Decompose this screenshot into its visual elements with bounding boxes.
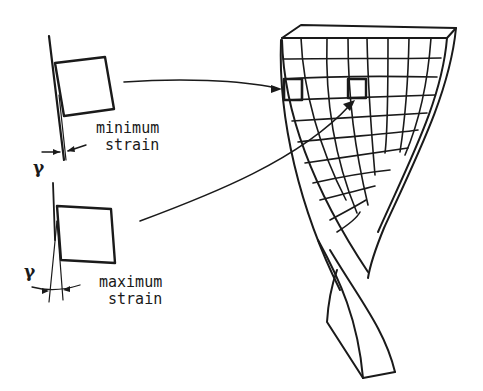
gamma-symbol-min: γ: [33, 157, 44, 177]
maximum-strain-label: maximum strain: [99, 274, 162, 308]
minimum-label-line2: strain: [96, 137, 159, 154]
maximum-label-line1: maximum: [99, 274, 162, 291]
leader-line-minimum: [124, 80, 276, 88]
minimum-label-line1: minimum: [96, 120, 159, 137]
strain-grid: [283, 38, 441, 232]
leader-line-maximum: [140, 105, 350, 221]
twisted-bar-diagram: [0, 0, 483, 391]
minimum-strain-label: minimum strain: [96, 120, 159, 154]
maximum-label-line2: strain: [99, 291, 162, 308]
gamma-symbol-max: γ: [24, 261, 35, 281]
